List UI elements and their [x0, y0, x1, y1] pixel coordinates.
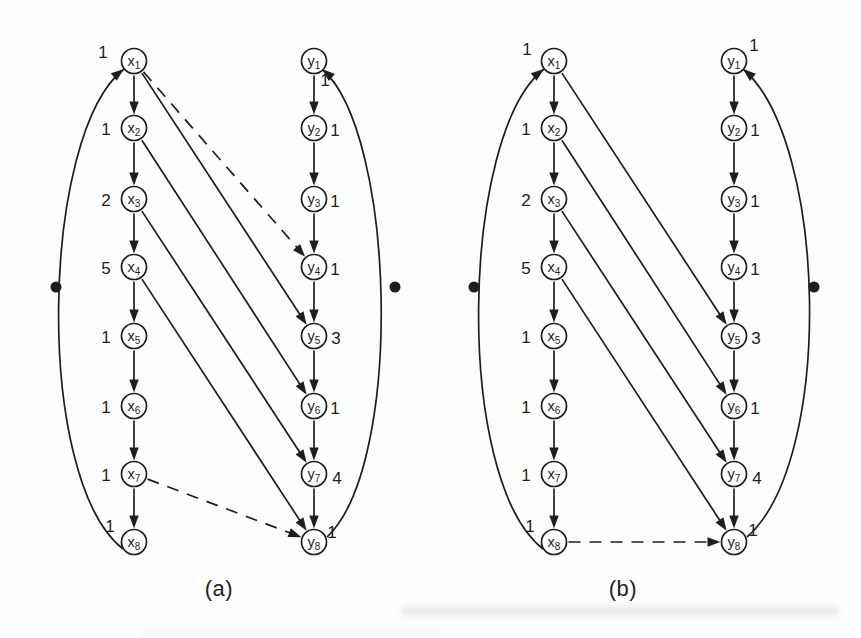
edge-x1-x2-b-arrowhead [549, 102, 558, 115]
edge-x3-x4-b-arrowhead [549, 241, 558, 254]
edge-x4-y8-b-arrowhead [716, 517, 727, 530]
edge-y4-y5-b-arrowhead [729, 310, 738, 323]
node-value-y6-b: 1 [750, 399, 759, 418]
edge-x6-x7-b-arrowhead [549, 448, 558, 461]
scan-artifact [140, 630, 440, 636]
node-value-x7-b: 1 [521, 466, 530, 485]
edge-x2-y6-a-arrowhead [296, 381, 307, 394]
edge-x3-y7-a [142, 211, 302, 455]
edge-x1-y5-b-arrowhead [716, 311, 727, 324]
node-value-x8-b: 1 [525, 517, 534, 536]
edge-y1-y2-b-arrowhead [729, 102, 738, 115]
edge-y2-y3-a-arrowhead [309, 173, 318, 186]
edge-x3-y7-b [562, 211, 722, 455]
node-value-y4-a: 1 [330, 260, 339, 279]
cycle-dot-b [469, 282, 480, 293]
node-value-x2-a: 1 [101, 120, 110, 139]
node-value-x4-a: 5 [101, 259, 110, 278]
figure-canvas: x11x21x32x45x51x61x71x81y11y21y31y41y53y… [0, 0, 861, 638]
edge-x1-y5-b [562, 73, 722, 317]
node-value-x8-a: 1 [105, 517, 114, 536]
edge-x2-x3-b-arrowhead [549, 173, 558, 186]
node-value-y3-a: 1 [330, 192, 339, 211]
node-value-y5-b: 3 [751, 329, 760, 348]
edge-x4-y8-b [562, 279, 722, 523]
node-value-y6-a: 1 [330, 399, 339, 418]
node-value-x7-a: 1 [101, 466, 110, 485]
node-value-x4-b: 5 [521, 259, 530, 278]
scan-artifact [400, 606, 840, 616]
node-value-x6-b: 1 [521, 398, 530, 417]
node-value-y5-a: 3 [331, 329, 340, 348]
node-value-y8-a: 1 [327, 523, 336, 542]
edge-y2-y3-b-arrowhead [729, 173, 738, 186]
edge-x1-x2-a-arrowhead [129, 102, 138, 115]
edge-x2-y6-b-arrowhead [716, 381, 727, 394]
edge-x4-x5-b-arrowhead [549, 310, 558, 323]
edge-x7-x8-a-arrowhead [129, 516, 138, 529]
node-value-x5-b: 1 [521, 328, 530, 347]
edge-x8-y8-b-arrowhead [708, 537, 721, 546]
edge-x2-x3-a-arrowhead [129, 173, 138, 186]
node-value-y2-b: 1 [750, 121, 759, 140]
edge-x3-y7-a-arrowhead [296, 449, 307, 462]
node-value-x1-a: 1 [98, 43, 107, 62]
node-value-y7-b: 4 [752, 469, 761, 488]
node-value-y1-a: 1 [320, 71, 329, 90]
node-value-x5-a: 1 [101, 328, 110, 347]
edge-x8-x1-b [479, 69, 544, 549]
edge-y3-y4-b-arrowhead [729, 241, 738, 254]
node-value-x6-a: 1 [101, 398, 110, 417]
edge-x4-y8-a-arrowhead [296, 517, 307, 530]
cycle-dot-a [51, 282, 62, 293]
node-value-y3-b: 1 [750, 192, 759, 211]
edge-y5-y6-a-arrowhead [309, 380, 318, 393]
diagram-b: x11x21x32x45x51x61x71x81y11y21y31y41y53y… [469, 36, 820, 555]
edge-x3-y7-b-arrowhead [716, 449, 727, 462]
node-value-x3-a: 2 [101, 191, 110, 210]
edge-x1-y5-a [142, 73, 302, 317]
edge-x7-x8-b-arrowhead [549, 516, 558, 529]
edge-y1-y2-a-arrowhead [309, 102, 318, 115]
edge-x7-y8-a-arrowhead [288, 528, 302, 537]
node-value-x2-b: 1 [521, 120, 530, 139]
caption-diagram-b: (b) [588, 576, 658, 602]
edge-x4-y8-a [142, 279, 302, 523]
cycle-dot-a [390, 282, 401, 293]
edge-x4-x5-a-arrowhead [129, 310, 138, 323]
edge-y7-y8-a-arrowhead [309, 516, 318, 529]
edge-x2-y6-b [562, 140, 722, 387]
edge-x7-y8-a [148, 479, 293, 534]
node-value-y8-b: 1 [748, 521, 757, 540]
edge-y3-y4-a-arrowhead [309, 241, 318, 254]
edge-y5-y6-b-arrowhead [729, 380, 738, 393]
edge-x2-y6-a [142, 140, 302, 387]
edge-x5-x6-a-arrowhead [129, 380, 138, 393]
edge-y6-y7-a-arrowhead [309, 448, 318, 461]
graph-svg: x11x21x32x45x51x61x71x81y11y21y31y41y53y… [0, 0, 861, 638]
node-value-x3-b: 2 [521, 191, 530, 210]
edge-x3-x4-a-arrowhead [129, 241, 138, 254]
edge-x5-x6-b-arrowhead [549, 380, 558, 393]
node-value-y2-a: 1 [330, 121, 339, 140]
diagram-a: x11x21x32x45x51x61x71x81y11y21y31y41y53y… [51, 43, 401, 555]
cycle-dot-b [809, 282, 820, 293]
node-value-y1-b: 1 [749, 36, 758, 55]
edge-x8-x1-a [59, 69, 124, 549]
node-value-y7-a: 4 [332, 469, 341, 488]
edge-y4-y5-a-arrowhead [309, 310, 318, 323]
edge-x1-y4-a [144, 72, 300, 250]
edge-x1-y4-a-arrowhead [293, 244, 305, 257]
node-value-x1-b: 1 [522, 40, 531, 59]
edge-y6-y7-b-arrowhead [729, 448, 738, 461]
edge-y7-y8-b-arrowhead [729, 516, 738, 529]
caption-diagram-a: (a) [184, 576, 254, 602]
node-value-y4-b: 1 [750, 260, 759, 279]
edge-x6-x7-a-arrowhead [129, 448, 138, 461]
edge-x1-y5-a-arrowhead [296, 311, 307, 324]
